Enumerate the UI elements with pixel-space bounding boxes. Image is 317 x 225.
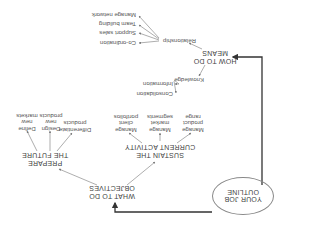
item-consolidation: Consolidation bbox=[137, 91, 173, 98]
knowledge-node: Knowledge bbox=[174, 77, 204, 84]
root-node-your-job-outline: YOUR JOB OUTLINE bbox=[212, 177, 274, 215]
prepare-line2: THE FUTURE bbox=[22, 152, 68, 160]
item-line1: Manage bbox=[182, 126, 204, 133]
sustain-current-activity-node: SUSTAIN THE CURRENT ACTIVITY bbox=[125, 144, 195, 159]
item-information: Information bbox=[143, 81, 173, 88]
item-manage-client-portfolios: Manage client portfolios bbox=[114, 113, 138, 133]
item-design-new-products: Design new products bbox=[39, 112, 62, 132]
item-co-ordination: Co-ordination bbox=[100, 40, 136, 47]
sustain-line1: SUSTAIN THE bbox=[125, 151, 195, 159]
item-line3: products bbox=[39, 112, 62, 119]
item-line1: Design bbox=[39, 125, 62, 132]
means-node: HOW TO DO MEANS bbox=[194, 50, 237, 65]
item-support-sales: Support sales bbox=[99, 30, 136, 37]
item-line3: segments bbox=[147, 113, 173, 120]
item-manage-market-segments: Manage market segments bbox=[147, 113, 173, 133]
item-line3: portfolios bbox=[114, 113, 138, 120]
means-line1: HOW TO DO bbox=[194, 57, 237, 65]
item-line1: Differentiate bbox=[59, 126, 91, 133]
objectives-line2: OBJECTIVES bbox=[89, 185, 135, 193]
prepare-line1: PREPARE bbox=[22, 159, 68, 167]
root-line2: OUTLINE bbox=[224, 189, 261, 197]
item-manage-product-range: Manage product range bbox=[182, 113, 204, 133]
item-team-building: Team building bbox=[99, 21, 136, 28]
relationship-node: Relationship bbox=[163, 38, 196, 45]
item-line1: Manage bbox=[147, 126, 173, 133]
root-line1: YOUR JOB bbox=[224, 196, 261, 204]
item-line3: markets bbox=[16, 112, 37, 119]
item-line3: range bbox=[182, 113, 204, 120]
prepare-the-future-node: PREPARE THE FUTURE bbox=[22, 152, 68, 167]
mind-map-diagram: YOUR JOB OUTLINE WHAT TO DO OBJECTIVES S… bbox=[0, 0, 317, 225]
means-line2: MEANS bbox=[194, 50, 237, 58]
item-line1: Manage bbox=[114, 126, 138, 133]
sustain-line2: CURRENT ACTIVITY bbox=[125, 144, 195, 152]
item-line1: Define bbox=[16, 125, 37, 132]
item-manage-network: Manage network bbox=[92, 12, 136, 19]
objectives-node: WHAT TO DO OBJECTIVES bbox=[89, 185, 135, 200]
item-line2: product bbox=[182, 120, 204, 127]
item-define-new-markets: Define new markets bbox=[16, 112, 37, 132]
item-differentiate-products: Differentiate products bbox=[59, 120, 91, 133]
objectives-line1: WHAT TO DO bbox=[89, 192, 135, 200]
